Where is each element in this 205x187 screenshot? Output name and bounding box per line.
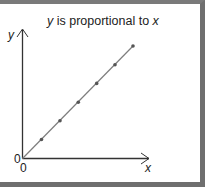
data-point	[113, 63, 117, 67]
proportional-line-chart: y is proportional to x y x 0 0	[0, 0, 205, 187]
x-origin-label: 0	[20, 161, 27, 175]
chart-title: y is proportional to x	[46, 14, 160, 28]
x-axis-label: x	[144, 161, 152, 175]
data-point	[95, 82, 99, 86]
data-point	[77, 100, 81, 104]
data-point	[58, 119, 62, 123]
y-axis-label: y	[7, 28, 15, 42]
data-point	[131, 44, 135, 48]
data-point	[40, 138, 44, 142]
